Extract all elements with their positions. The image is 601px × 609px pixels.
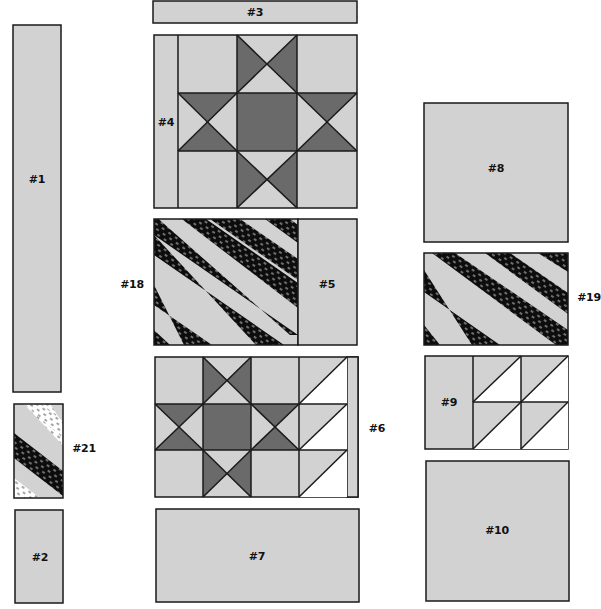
ohio-star-bottom [155, 357, 358, 497]
ohio-star-top [154, 35, 357, 208]
quilt-diagram-canvas [0, 0, 601, 609]
label-piece-8: #8 [488, 162, 504, 175]
label-piece-18: #18 [120, 278, 144, 291]
label-piece-3: #3 [247, 6, 263, 19]
label-piece-1: #1 [29, 173, 45, 186]
label-piece-2: #2 [32, 551, 48, 564]
label-piece-7: #7 [249, 550, 265, 563]
label-piece-5: #5 [319, 278, 335, 291]
label-piece-19: #19 [577, 291, 601, 304]
piece-19 [424, 253, 568, 345]
piece-1 [13, 25, 61, 392]
label-piece-21: #21 [72, 442, 96, 455]
piece-21 [14, 404, 73, 498]
label-piece-9: #9 [441, 396, 457, 409]
piece-18 [140, 187, 298, 345]
label-piece-4: #4 [158, 116, 174, 129]
label-piece-10: #10 [485, 524, 509, 537]
label-piece-6: #6 [369, 422, 385, 435]
